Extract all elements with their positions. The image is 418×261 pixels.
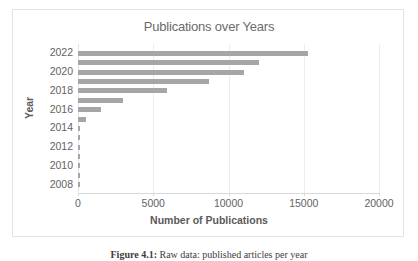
- bar-row: [78, 170, 80, 180]
- bar-2014: [78, 126, 80, 131]
- bar-2010: [78, 163, 80, 168]
- bar-2015: [78, 117, 86, 122]
- y-tick-label-2014: 2014: [31, 121, 73, 133]
- x-tick-label-15000: 15000: [274, 197, 334, 209]
- figure-caption-text: Raw data: published articles per year: [159, 249, 307, 260]
- chart-frame: Publications over Years Year 20082010201…: [12, 9, 404, 237]
- bar-row: [78, 152, 80, 162]
- x-tick-mark-15000: [304, 193, 305, 196]
- bar-row: [78, 95, 123, 105]
- x-tick-label-5000: 5000: [123, 197, 183, 209]
- bar-2017: [78, 98, 123, 103]
- gridline-x-15000: [304, 44, 305, 194]
- x-axis-title: Number of Publications: [13, 214, 405, 226]
- y-tick-label-2022: 2022: [31, 46, 73, 58]
- bar-2022: [78, 51, 308, 56]
- x-tick-label-0: 0: [48, 197, 108, 209]
- bar-row: [78, 105, 101, 115]
- x-tick-label-20000: 20000: [349, 197, 409, 209]
- y-tick-label-2010: 2010: [31, 159, 73, 171]
- bar-2009: [78, 173, 80, 178]
- bar-2020: [78, 70, 244, 75]
- bar-2018: [78, 88, 167, 93]
- bar-2012: [78, 145, 80, 150]
- x-tick-mark-20000: [379, 193, 380, 196]
- bar-row: [78, 123, 80, 133]
- y-tick-label-2016: 2016: [31, 103, 73, 115]
- y-tick-label-2012: 2012: [31, 140, 73, 152]
- x-tick-mark-10000: [229, 193, 230, 196]
- bar-row: [78, 180, 80, 190]
- bar-row: [78, 114, 86, 124]
- bar-2021: [78, 60, 259, 65]
- x-tick-mark-0: [78, 193, 79, 196]
- plot-area: [78, 44, 379, 194]
- y-tick-label-2018: 2018: [31, 84, 73, 96]
- x-axis-tick-labels: 05000100001500020000: [78, 197, 379, 213]
- x-tick-label-10000: 10000: [199, 197, 259, 209]
- chart-title: Publications over Years: [13, 19, 405, 34]
- bar-2016: [78, 107, 101, 112]
- figure-caption: Figure 4.1: Raw data: published articles…: [0, 249, 418, 261]
- y-axis-tick-labels: 20082010201220142016201820202022: [27, 44, 73, 194]
- bar-2019: [78, 79, 209, 84]
- bar-row: [78, 133, 80, 143]
- bar-row: [78, 48, 308, 58]
- bar-row: [78, 77, 209, 87]
- bar-row: [78, 142, 80, 152]
- bar-row: [78, 67, 244, 77]
- y-tick-label-2008: 2008: [31, 178, 73, 190]
- bar-2013: [78, 135, 80, 140]
- bar-2008: [78, 182, 80, 187]
- bar-row: [78, 58, 259, 68]
- bar-row: [78, 86, 167, 96]
- figure-caption-label: Figure 4.1:: [111, 249, 157, 260]
- figure-container: Publications over Years Year 20082010201…: [0, 0, 418, 261]
- bar-row: [78, 161, 80, 171]
- gridline-x-20000: [379, 44, 380, 194]
- x-tick-mark-5000: [153, 193, 154, 196]
- bar-2011: [78, 154, 80, 159]
- y-tick-label-2020: 2020: [31, 65, 73, 77]
